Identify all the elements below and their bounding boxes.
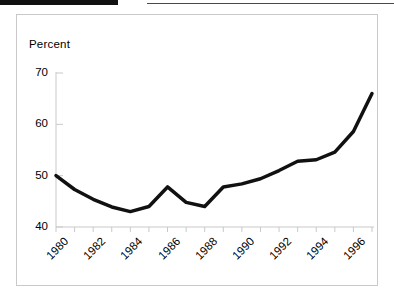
y-axis-tick-label: 40 (24, 220, 48, 232)
y-axis-tick-label: 70 (24, 66, 48, 78)
data-series-line (56, 94, 372, 212)
y-axis-tick-label: 60 (24, 117, 48, 129)
y-axis-tick-label: 50 (24, 169, 48, 181)
